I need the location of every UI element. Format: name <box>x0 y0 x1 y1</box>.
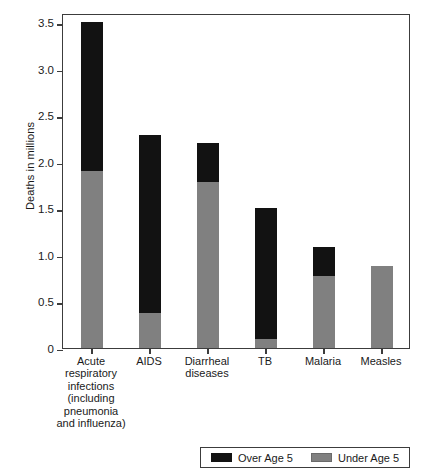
y-tick-mark <box>57 164 63 165</box>
x-tick-mark <box>323 348 324 354</box>
y-tick-mark <box>57 117 63 118</box>
bar-tb[interactable] <box>255 208 277 348</box>
y-tick-label: 2.0 <box>38 158 54 170</box>
bar-segment-over-age-5 <box>255 208 277 338</box>
bar-segment-over-age-5 <box>139 135 161 313</box>
y-tick-mark <box>57 210 63 211</box>
bar-acute-respiratory-infections[interactable] <box>81 22 103 348</box>
x-axis-label-measles: Measles <box>346 355 416 367</box>
x-tick-mark <box>381 348 382 354</box>
bar-aids[interactable] <box>139 135 161 348</box>
bar-segment-over-age-5 <box>197 143 219 182</box>
stacked-bar-chart: Deaths in millions 00.51.01.52.02.53.03.… <box>0 0 423 475</box>
bar-measles[interactable] <box>371 266 393 348</box>
gray-swatch-icon <box>311 453 332 462</box>
legend-label: Under Age 5 <box>338 452 399 464</box>
y-tick-label: 3.5 <box>38 19 54 31</box>
y-tick-label: 1.5 <box>38 205 54 217</box>
legend-entry-over-age-5[interactable]: Over Age 5 <box>211 452 293 464</box>
y-axis-title: Deaths in millions <box>24 66 36 266</box>
bar-segment-under-age-5 <box>255 339 277 348</box>
y-tick-mark <box>57 24 63 25</box>
x-tick-mark <box>265 348 266 354</box>
y-tick-label: 0 <box>48 344 54 356</box>
y-tick-mark <box>57 257 63 258</box>
bar-diarrheal-diseases[interactable] <box>197 143 219 348</box>
bar-segment-under-age-5 <box>371 266 393 348</box>
bar-segment-over-age-5 <box>81 22 103 171</box>
bar-segment-under-age-5 <box>197 182 219 348</box>
y-tick-mark <box>57 71 63 72</box>
y-tick-label: 1.0 <box>38 251 54 263</box>
y-tick-label: 2.5 <box>38 112 54 124</box>
x-tick-mark <box>207 348 208 354</box>
black-swatch-icon <box>211 453 232 462</box>
bar-segment-under-age-5 <box>139 313 161 348</box>
plot-area: 00.51.01.52.02.53.03.5 <box>62 14 410 349</box>
legend-label: Over Age 5 <box>238 452 293 464</box>
legend-entry-under-age-5[interactable]: Under Age 5 <box>311 452 399 464</box>
chart-legend: Over Age 5Under Age 5 <box>200 447 410 468</box>
x-tick-mark <box>149 348 150 354</box>
bar-segment-under-age-5 <box>81 171 103 348</box>
bar-malaria[interactable] <box>313 247 335 348</box>
bar-segment-over-age-5 <box>313 247 335 277</box>
bar-segment-under-age-5 <box>313 276 335 348</box>
y-tick-mark <box>57 350 63 351</box>
y-tick-label: 0.5 <box>38 298 54 310</box>
y-tick-mark <box>57 303 63 304</box>
x-tick-mark <box>91 348 92 354</box>
y-tick-label: 3.0 <box>38 65 54 77</box>
